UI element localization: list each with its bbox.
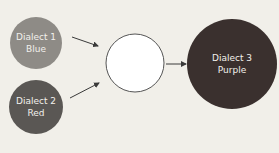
dialect2-color: Red — [9, 107, 63, 119]
dialect1-color: Blue — [10, 43, 62, 55]
dialect3-color: Purple — [200, 64, 264, 76]
dialect3-label: Dialect 3 Purple — [200, 52, 264, 76]
mix-node — [106, 34, 164, 92]
dialect2-label: Dialect 2 Red — [9, 95, 63, 119]
arrow-dialect2-to-mix — [70, 83, 99, 98]
dialect1-name: Dialect 1 — [10, 31, 62, 43]
dialect2-name: Dialect 2 — [9, 95, 63, 107]
dialect1-label: Dialect 1 Blue — [10, 31, 62, 55]
arrow-dialect1-to-mix — [72, 37, 98, 46]
dialect3-name: Dialect 3 — [200, 52, 264, 64]
diagram-canvas — [0, 0, 279, 153]
